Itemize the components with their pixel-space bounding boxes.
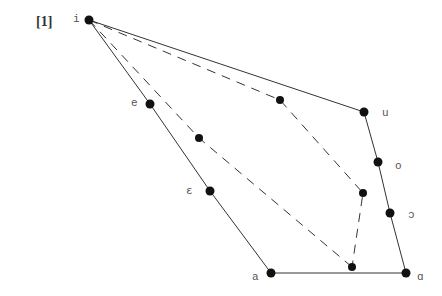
vowel-label: ɑ bbox=[417, 271, 424, 283]
vowel-point bbox=[267, 269, 276, 278]
vowel-point bbox=[359, 189, 367, 197]
vowel-point bbox=[402, 269, 411, 278]
vowel-label: ε bbox=[186, 185, 193, 197]
vowel-label: u bbox=[382, 107, 389, 119]
vowel-point bbox=[374, 158, 383, 167]
vowel-point bbox=[386, 209, 395, 218]
dashed-path-0 bbox=[89, 20, 363, 267]
vowel-chart: [1] ieεaɑɔou bbox=[0, 0, 442, 296]
vowel-label: o bbox=[395, 160, 402, 172]
outer-quadrilateral bbox=[89, 20, 406, 273]
vowel-point bbox=[348, 263, 356, 271]
vowel-label: a bbox=[252, 271, 259, 283]
vowel-label: ɔ bbox=[408, 209, 415, 221]
vowel-point bbox=[195, 134, 203, 142]
dashed-path-1 bbox=[89, 20, 352, 267]
vowel-quadrilateral bbox=[0, 0, 442, 296]
vowel-point bbox=[360, 108, 369, 117]
vowel-point bbox=[85, 16, 94, 25]
vowel-point bbox=[146, 100, 155, 109]
vowel-point bbox=[276, 96, 284, 104]
vowel-label: i bbox=[73, 13, 80, 25]
vowel-label: e bbox=[131, 97, 138, 109]
vowel-point bbox=[206, 187, 215, 196]
